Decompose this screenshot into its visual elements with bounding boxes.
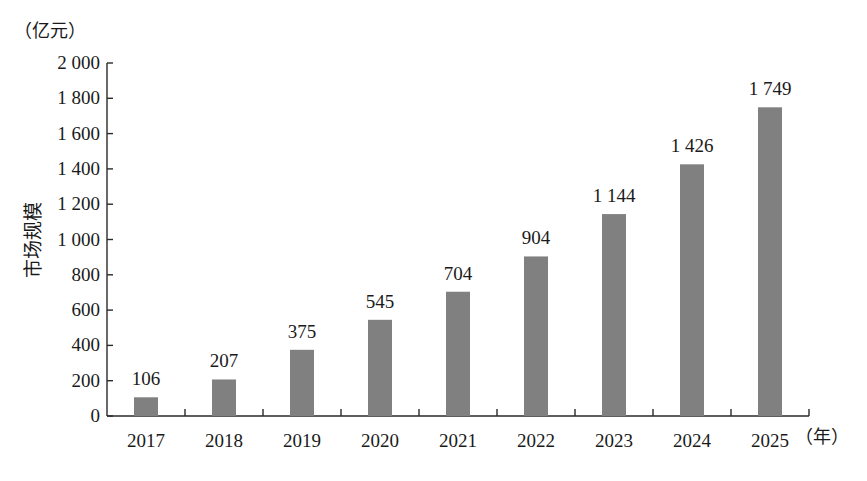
y-tick-label: 600 (72, 300, 101, 319)
y-unit-label: （亿元） (14, 22, 86, 40)
bar-value-label: 704 (418, 264, 498, 283)
bar-2025 (758, 107, 782, 416)
bar-chart: （亿元） 市场规模 （年） 02004006008001 0001 2001 4… (0, 0, 867, 481)
bar-value-label: 1 144 (574, 186, 654, 205)
x-tick-label: 2019 (262, 431, 342, 450)
y-tick-label: 800 (72, 265, 101, 284)
y-tick-label: 1 000 (57, 230, 100, 249)
x-tick-label: 2022 (496, 431, 576, 450)
bar-value-label: 545 (340, 292, 420, 311)
bar-2022 (524, 256, 548, 416)
bar-2021 (446, 292, 470, 416)
bar-value-label: 207 (184, 351, 264, 370)
x-tick-label: 2021 (418, 431, 498, 450)
bar-value-label: 1 749 (730, 79, 810, 98)
bar-2020 (368, 320, 392, 416)
x-tick-label: 2023 (574, 431, 654, 450)
y-tick-label: 1 600 (57, 124, 100, 143)
bar-value-label: 106 (106, 369, 186, 388)
y-tick-label: 200 (72, 371, 101, 390)
bar-2019 (290, 350, 314, 416)
y-tick-label: 1 400 (57, 159, 100, 178)
bar-value-label: 1 426 (652, 136, 732, 155)
bar-value-label: 904 (496, 228, 576, 247)
bar-2018 (212, 379, 236, 416)
bar-2023 (602, 214, 626, 416)
y-axis-title: 市场规模 (24, 195, 43, 285)
bar-2017 (134, 397, 158, 416)
plot-area (0, 0, 867, 481)
bar-value-label: 375 (262, 322, 342, 341)
y-tick-label: 0 (91, 406, 101, 425)
x-tick-label: 2024 (652, 431, 732, 450)
x-tick-label: 2020 (340, 431, 420, 450)
y-tick-label: 1 800 (57, 88, 100, 107)
x-tick-label: 2025 (730, 431, 810, 450)
x-tick-label: 2017 (106, 431, 186, 450)
y-tick-label: 400 (72, 335, 101, 354)
x-tick-label: 2018 (184, 431, 264, 450)
y-tick-label: 2 000 (57, 53, 100, 72)
y-tick-label: 1 200 (57, 194, 100, 213)
bar-2024 (680, 164, 704, 416)
